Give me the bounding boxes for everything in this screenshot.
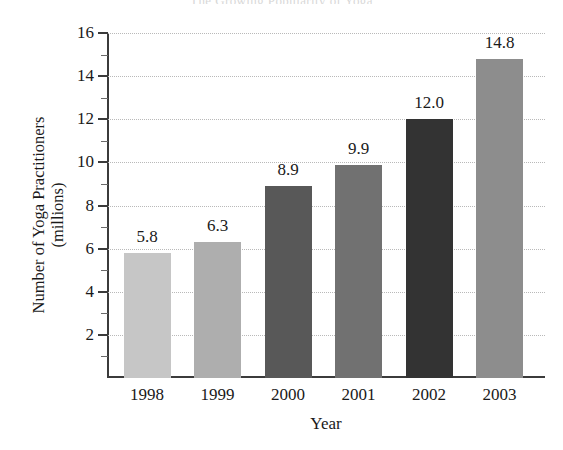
yoga-practitioners-bar-chart: The Growing Popularity of Yoga Number of…: [0, 0, 563, 450]
y-axis-title: Number of Yoga Practitioners (millions): [29, 50, 67, 380]
x-tick-label-2003: 2003: [483, 385, 517, 405]
x-tick-label-2001: 2001: [342, 385, 376, 405]
x-tick-label-1998: 1998: [130, 385, 164, 405]
bar-2001: [335, 165, 382, 378]
bars: 5.86.38.99.912.014.8: [107, 33, 545, 378]
bar-1999: [194, 242, 241, 378]
x-tick-label-2000: 2000: [271, 385, 305, 405]
bar-value-label-1998: 5.8: [136, 227, 157, 247]
plot-area: 246810121416 5.86.38.99.912.014.8: [107, 33, 545, 378]
bar-value-label-2000: 8.9: [277, 160, 298, 180]
y-tick-label-12: 12: [77, 109, 94, 129]
bar-1998: [124, 253, 171, 378]
y-tick-label-6: 6: [86, 239, 95, 259]
bar-group-2000: 8.9: [265, 33, 312, 378]
y-tick-label-14: 14: [77, 66, 94, 86]
y-tick-label-8: 8: [86, 196, 95, 216]
bar-group-2003: 14.8: [476, 33, 523, 378]
bar-value-label-1999: 6.3: [207, 216, 228, 236]
y-tick-label-16: 16: [77, 23, 94, 43]
bar-group-1998: 5.8: [124, 33, 171, 378]
bar-group-2002: 12.0: [406, 33, 453, 378]
bar-value-label-2001: 9.9: [348, 139, 369, 159]
bar-group-2001: 9.9: [335, 33, 382, 378]
bar-value-label-2003: 14.8: [485, 33, 515, 53]
x-tick-label-2002: 2002: [412, 385, 446, 405]
x-tick-label-1999: 1999: [201, 385, 235, 405]
clipped-chart-title: The Growing Popularity of Yoga: [0, 0, 563, 4]
x-axis-title: Year: [107, 414, 545, 434]
bar-2002: [406, 119, 453, 378]
y-tick-label-2: 2: [86, 325, 95, 345]
y-tick-label-10: 10: [77, 152, 94, 172]
bar-2003: [476, 59, 523, 378]
y-tick-label-4: 4: [86, 282, 95, 302]
bar-2000: [265, 186, 312, 378]
bar-group-1999: 6.3: [194, 33, 241, 378]
bar-value-label-2002: 12.0: [414, 93, 444, 113]
